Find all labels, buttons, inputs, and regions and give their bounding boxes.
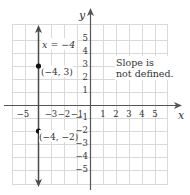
coordinate-plane: x y −5 −3 −2 −1 1 2 3 4 5 5 4 3 2 1 −1 −… [0, 0, 190, 195]
x-tick-label: 4 [139, 109, 144, 119]
y-tick-label: 3 [83, 59, 88, 69]
y-tick-label: 1 [83, 85, 88, 95]
y-tick-label: −4 [75, 151, 88, 161]
y-tick-label: 5 [83, 33, 88, 43]
slope-note-line2: not defined. [116, 68, 174, 79]
equation-label: x = −4 [42, 39, 75, 50]
y-tick-label: 4 [83, 46, 88, 56]
x-tick-label: −5 [17, 109, 30, 119]
y-axis-label: y [78, 9, 86, 22]
x-tick-label: 2 [113, 109, 118, 119]
x-tick-label: −2 [58, 109, 71, 119]
point-a-label: (−4, 3) [41, 67, 73, 77]
x-tick-label: 5 [152, 109, 157, 119]
x-tick-label: 3 [126, 109, 131, 119]
x-axis-label: x [178, 109, 185, 122]
point-b-label: (−4, −2) [39, 132, 78, 142]
y-tick-label: −1 [75, 112, 88, 122]
x-tick-label: 1 [100, 109, 105, 119]
slope-note-line1: Slope is [116, 57, 154, 68]
y-tick-label: −5 [75, 164, 88, 174]
y-tick-label: 2 [83, 72, 88, 82]
x-tick-label: −3 [45, 109, 58, 119]
